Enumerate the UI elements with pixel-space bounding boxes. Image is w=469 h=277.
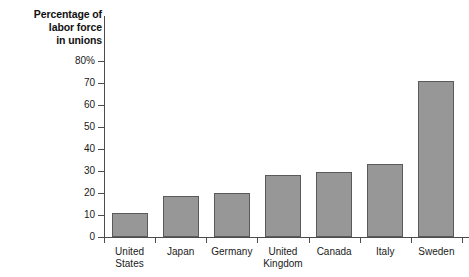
axis-title-line-3: in unions (10, 34, 102, 47)
x-axis-tick (155, 238, 156, 243)
axis-title-line-1: Percentage of (10, 8, 102, 21)
bar-japan (163, 196, 199, 237)
y-axis-tick-label: 0 (35, 232, 95, 242)
x-axis-tick (257, 238, 258, 243)
x-axis-tick (104, 238, 105, 243)
x-axis-tick (462, 238, 463, 243)
bar-united-states (112, 213, 148, 237)
category-label-line: Kingdom (251, 258, 314, 270)
category-label-line: States (98, 258, 161, 270)
bar-italy (367, 164, 403, 237)
bar-sweden (418, 81, 454, 237)
axis-title-line-2: labor force (10, 21, 102, 34)
y-axis-tick-label: 30 (35, 166, 95, 176)
y-axis-tick-label: 50 (35, 122, 95, 132)
bar-united-kingdom (265, 175, 301, 237)
y-axis-tick-label: 20 (35, 188, 95, 198)
x-axis-category-label: Sweden (405, 246, 468, 258)
x-axis-tick (309, 238, 310, 243)
x-axis-tick (360, 238, 361, 243)
y-axis-tick-label: 80% (35, 56, 95, 66)
x-axis-line (104, 237, 469, 238)
plot-area (104, 16, 462, 237)
y-axis-tick-label: 40 (35, 144, 95, 154)
category-label-line: Sweden (405, 246, 468, 258)
bar-canada (316, 172, 352, 237)
x-axis-tick (206, 238, 207, 243)
chart-axis-title: Percentage of labor force in unions (10, 8, 102, 47)
x-axis-tick (411, 238, 412, 243)
union-membership-bar-chart: Percentage of labor force in unions 0102… (0, 0, 469, 277)
y-axis-tick-label: 60 (35, 100, 95, 110)
y-axis-tick-label: 70 (35, 78, 95, 88)
y-axis-tick-label: 10 (35, 210, 95, 220)
bar-germany (214, 193, 250, 237)
